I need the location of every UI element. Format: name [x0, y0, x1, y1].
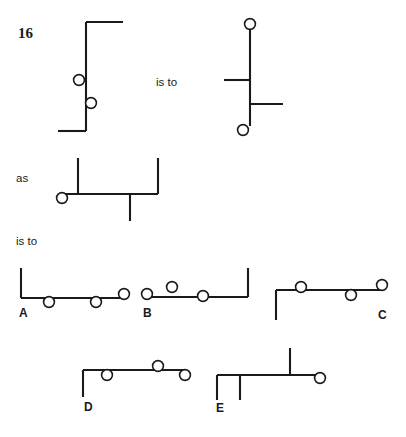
option-e-node-circle [315, 373, 326, 384]
prompt-left-node-circle [74, 75, 85, 86]
prompt-left-node-circle [86, 98, 97, 109]
prompt-right-node-circle [245, 19, 256, 30]
option-c-node-circle [346, 290, 357, 301]
option-a-node-circle [119, 289, 130, 300]
option-b-label: B [143, 306, 152, 320]
relation-text-is-to-2: is to [16, 235, 37, 247]
as-label: as [16, 172, 28, 184]
option-d-node-circle [180, 370, 191, 381]
relation-text-as: as [16, 172, 28, 184]
is-to-label-1: is to [156, 76, 177, 88]
option-b-node-circle [198, 291, 209, 302]
question-number: 16 [18, 25, 34, 41]
option-e-label: E [216, 401, 224, 415]
diagram-background [0, 0, 406, 437]
option-a-node-circle [91, 297, 102, 308]
option-d-node-circle [102, 370, 113, 381]
option-c-node-circle [296, 282, 307, 293]
question-number-group: 16 [18, 25, 34, 41]
option-c-node-circle [377, 280, 388, 291]
analogy-source-node-circle [57, 193, 68, 204]
option-b-node-circle [142, 289, 153, 300]
option-d-node-circle [153, 361, 164, 372]
option-b-node-circle [167, 282, 178, 293]
is-to-label-2: is to [16, 235, 37, 247]
relation-text-is-to-1: is to [156, 76, 177, 88]
option-c-label: C [378, 308, 387, 322]
analogy-puzzle-diagram: 16 is to as is to ABCDE [0, 0, 406, 437]
prompt-right-node-circle [238, 125, 249, 136]
option-a-label: A [19, 306, 28, 320]
option-d-label: D [84, 400, 93, 414]
option-a-node-circle [44, 297, 55, 308]
